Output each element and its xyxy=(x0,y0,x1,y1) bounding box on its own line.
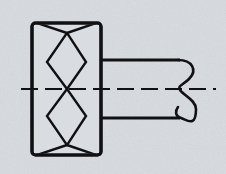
mechanical-drawing-geometry xyxy=(0,0,226,174)
knurled-head-group xyxy=(31,21,102,157)
conventional-break-curve xyxy=(176,60,196,121)
technical-drawing-canvas: Knurled head shaft — orthographic view w… xyxy=(0,0,226,174)
break-symbol-group xyxy=(176,60,196,121)
